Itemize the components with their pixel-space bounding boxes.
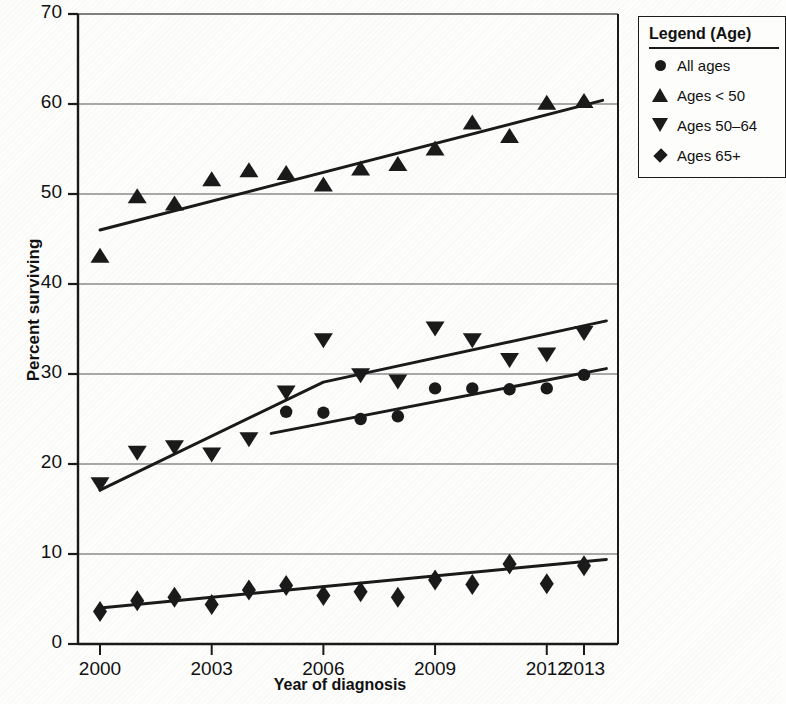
x-tick-label: 2003 [177, 658, 247, 680]
legend-title: Legend (Age) [649, 25, 779, 49]
legend-box: Legend (Age) All ages Ages < 50 Ages 50–… [638, 16, 786, 178]
legend-label: Ages 65+ [677, 147, 741, 164]
circle-marker-icon [649, 54, 671, 76]
y-axis-title: Percent surviving [24, 180, 44, 440]
y-tick-label: 10 [10, 541, 62, 563]
x-tick-label: 2006 [288, 658, 358, 680]
x-tick-label: 2013 [549, 658, 619, 680]
y-tick-label: 50 [10, 181, 62, 203]
y-tick-label: 30 [10, 361, 62, 383]
data-markers [91, 93, 594, 622]
legend-label: Ages 50–64 [677, 117, 757, 134]
legend-label: Ages < 50 [677, 87, 745, 104]
triangle-down-marker-icon [649, 114, 671, 136]
legend-item-ages-50-64[interactable]: Ages 50–64 [649, 111, 785, 139]
x-tick-label: 2009 [400, 658, 470, 680]
legend-label: All ages [677, 57, 730, 74]
gridlines [78, 14, 618, 554]
y-tick-label: 70 [10, 1, 62, 23]
x-tick-label: 2000 [65, 658, 135, 680]
legend-item-ages-under-50[interactable]: Ages < 50 [649, 81, 785, 109]
axis-lines [78, 14, 618, 644]
trend-lines [100, 100, 606, 608]
y-tick-label: 40 [10, 271, 62, 293]
legend-item-ages-65-plus[interactable]: Ages 65+ [649, 141, 785, 169]
diamond-marker-icon [649, 144, 671, 166]
y-tick-label: 20 [10, 451, 62, 473]
y-tick-label: 0 [10, 631, 62, 653]
triangle-up-marker-icon [649, 84, 671, 106]
y-tick-label: 60 [10, 91, 62, 113]
legend-item-all-ages[interactable]: All ages [649, 51, 785, 79]
